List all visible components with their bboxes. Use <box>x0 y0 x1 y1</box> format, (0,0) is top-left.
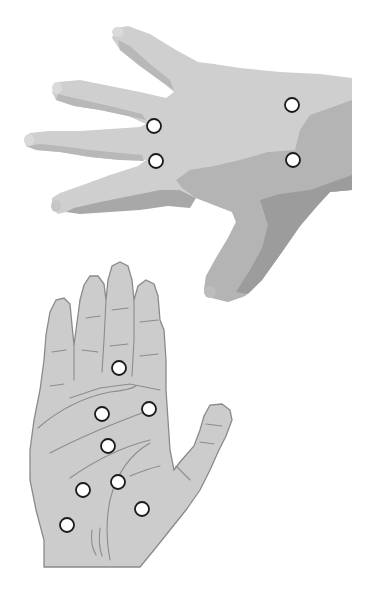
pressure-point-palm-7[interactable] <box>135 502 149 516</box>
back-of-hand <box>24 26 352 302</box>
pressure-point-palm-5[interactable] <box>111 475 125 489</box>
pressure-point-back-1[interactable] <box>147 119 161 133</box>
pressure-point-back-4[interactable] <box>286 153 300 167</box>
pressure-point-palm-2[interactable] <box>95 407 109 421</box>
fingertip-little <box>51 200 61 212</box>
pressure-point-back-2[interactable] <box>149 154 163 168</box>
pressure-point-back-3[interactable] <box>285 98 299 112</box>
hands-illustration <box>0 0 369 599</box>
pressure-point-palm-6[interactable] <box>76 483 90 497</box>
fingertip-ring <box>24 134 34 146</box>
fingertip-index <box>112 27 124 37</box>
fingertip-middle <box>52 82 62 94</box>
pressure-point-palm-4[interactable] <box>101 439 115 453</box>
fingertip-thumb <box>204 286 216 298</box>
pressure-point-palm-1[interactable] <box>112 361 126 375</box>
pressure-point-palm-3[interactable] <box>142 402 156 416</box>
pressure-point-palm-8[interactable] <box>60 518 74 532</box>
